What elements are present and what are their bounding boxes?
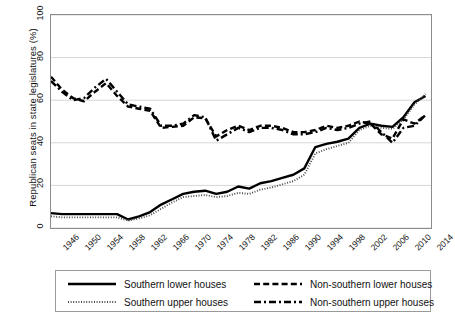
legend-entry: Southern lower houses xyxy=(66,275,226,293)
x-tick-label: 1966 xyxy=(171,232,191,252)
legend-line-swatch xyxy=(66,295,118,309)
x-tick-label: 1950 xyxy=(83,232,103,252)
legend-label: Southern lower houses xyxy=(124,279,226,290)
legend-entry: Non-southern lower houses xyxy=(252,275,432,293)
x-tick-label: 1946 xyxy=(61,232,81,252)
x-tick-label: 2002 xyxy=(369,232,389,252)
x-tick-label: 2010 xyxy=(413,232,433,252)
x-tick-label: 1990 xyxy=(303,232,323,252)
x-tick-label: 1974 xyxy=(215,232,235,252)
x-tick-label: 2014 xyxy=(435,232,455,252)
legend-line-swatch xyxy=(66,277,118,291)
x-tick-label: 1954 xyxy=(105,232,125,252)
x-tick-label: 1978 xyxy=(237,232,257,252)
legend-line-swatch xyxy=(252,295,304,309)
x-tick-label: 1998 xyxy=(347,232,367,252)
chart-legend: Southern lower housesSouthern upper hous… xyxy=(55,270,431,312)
x-tick-label: 1986 xyxy=(281,232,301,252)
x-tick-label: 1970 xyxy=(193,232,213,252)
legend-entry: Southern upper houses xyxy=(66,293,228,311)
x-tick-label: 1958 xyxy=(127,232,147,252)
x-tick-label: 1982 xyxy=(259,232,279,252)
x-tick-label: 2006 xyxy=(391,232,411,252)
legend-label: Non-southern upper houses xyxy=(310,297,434,308)
legend-entry: Non-southern upper houses xyxy=(252,293,434,311)
legend-label: Non-southern lower houses xyxy=(310,279,432,290)
legend-line-swatch xyxy=(252,277,304,291)
x-tick-label: 1962 xyxy=(149,232,169,252)
legend-label: Southern upper houses xyxy=(124,297,228,308)
x-tick-label: 1994 xyxy=(325,232,345,252)
